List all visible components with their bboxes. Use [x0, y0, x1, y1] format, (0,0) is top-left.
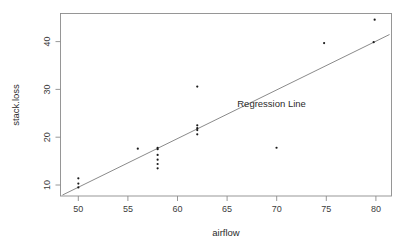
x-tick-label-70: 70 — [272, 204, 282, 214]
plot-canvas: 40 30 20 10 50 55 60 65 70 75 80 airflow… — [0, 0, 403, 245]
x-tick-label-80: 80 — [371, 204, 381, 214]
x-tick-label-50: 50 — [73, 204, 83, 214]
data-point — [196, 133, 198, 135]
data-point — [374, 19, 376, 21]
data-point — [196, 124, 198, 126]
y-tick-label-10: 10 — [42, 180, 52, 190]
y-tick-label-40: 40 — [42, 37, 52, 47]
data-point — [196, 127, 198, 129]
data-point — [77, 186, 79, 188]
y-tick-label-30: 30 — [42, 84, 52, 94]
x-tick-label-75: 75 — [321, 204, 331, 214]
data-point — [157, 147, 159, 149]
x-tick-label-60: 60 — [172, 204, 182, 214]
regression-line-annotation: Regression Line — [237, 98, 306, 109]
y-axis-title: stack.loss — [10, 84, 21, 126]
data-point — [323, 42, 325, 44]
data-point — [137, 148, 139, 150]
x-tick-label-55: 55 — [123, 204, 133, 214]
data-point — [373, 41, 375, 43]
data-point — [157, 163, 159, 165]
data-point — [196, 85, 198, 87]
data-point — [77, 177, 79, 179]
data-point — [275, 147, 277, 149]
x-tick-label-65: 65 — [222, 204, 232, 214]
data-point — [157, 154, 159, 156]
data-point — [77, 182, 79, 184]
data-point — [157, 167, 159, 169]
data-point — [196, 129, 198, 131]
x-axis-title: airflow — [212, 227, 240, 238]
data-point — [157, 159, 159, 161]
scatter-plot-figure: 40 30 20 10 50 55 60 65 70 75 80 airflow… — [0, 0, 403, 245]
y-tick-label-20: 20 — [42, 132, 52, 142]
